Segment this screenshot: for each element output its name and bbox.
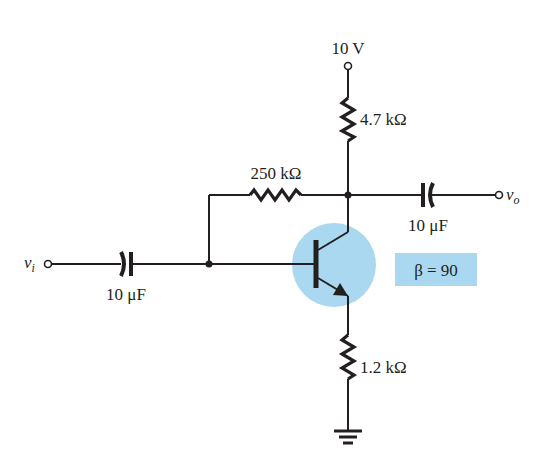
resistor-re-icon <box>342 335 354 379</box>
input-terminal-icon <box>45 261 52 268</box>
beta-label: β = 90 <box>414 261 458 280</box>
re-label: 1.2 kΩ <box>360 358 407 377</box>
output-terminal-icon <box>496 192 503 199</box>
supply-label: 10 V <box>331 39 365 58</box>
rf-label: 250 kΩ <box>251 164 302 183</box>
c-out-label: 10 μF <box>408 216 448 235</box>
input-label: vi <box>24 253 35 275</box>
ground-icon <box>334 431 362 443</box>
c-in-label: 10 μF <box>106 285 146 304</box>
resistor-rc-icon <box>342 98 354 141</box>
circuit-diagram: β = 90 10 V 4.7 kΩ 250 kΩ vo 10 μF vi 10… <box>0 0 555 476</box>
output-label: vo <box>506 185 520 207</box>
cap-in-plate-curved <box>121 252 124 276</box>
supply-terminal-icon <box>345 63 352 70</box>
rc-label: 4.7 kΩ <box>360 110 407 129</box>
resistor-rf-icon <box>250 190 301 200</box>
